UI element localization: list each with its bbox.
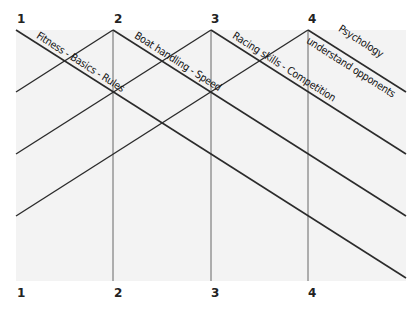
- stage-marker-bottom-3: 3: [211, 286, 219, 300]
- stage-marker-top-4: 4: [308, 12, 316, 26]
- stage-marker-bottom-1: 1: [17, 286, 25, 300]
- stage-marker-top-3: 3: [211, 12, 219, 26]
- stage-marker-bottom-2: 2: [114, 286, 122, 300]
- stage-marker-top-2: 2: [114, 12, 122, 26]
- stage-marker-top-1: 1: [17, 12, 25, 26]
- stage-marker-bottom-4: 4: [308, 286, 316, 300]
